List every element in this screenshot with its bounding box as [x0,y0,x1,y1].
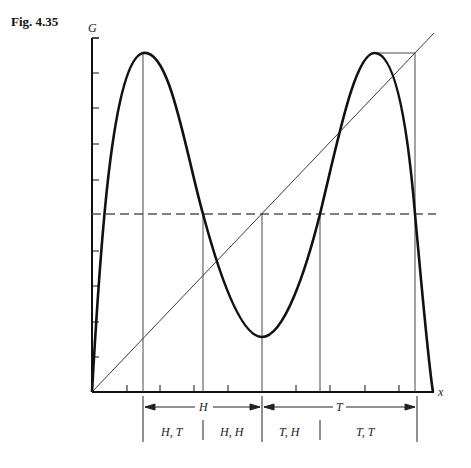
diagram-canvas: G x H T H, T H, H T, H T, [0,0,471,468]
h-range-label: H [198,400,209,414]
cell-label-tt: T, T [356,425,376,439]
t-range-label: T [336,400,344,414]
cell-label-ht: H, T [160,425,184,439]
cell-label-hh: H, H [219,425,245,439]
x-axis-label: x [437,385,444,399]
y-axis-label: G [88,21,97,35]
x-axis-ticks [127,385,399,392]
cell-label-th: T, H [279,425,301,439]
vertical-guides [143,53,415,392]
